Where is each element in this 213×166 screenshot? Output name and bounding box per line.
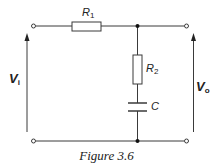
r2-subscript: 2 [154, 67, 158, 76]
bottom-junction-node [136, 139, 140, 143]
resistor-r1 [72, 22, 101, 31]
r1-subscript: 1 [90, 11, 94, 20]
r2-label: R2 [146, 63, 158, 76]
top-junction-node [136, 24, 140, 28]
c-label: C [151, 101, 159, 112]
vi-subscript: i [18, 78, 20, 87]
r1-symbol: R [82, 6, 90, 18]
vi-symbol: V [9, 71, 18, 86]
circuit-diagram [0, 0, 213, 166]
vo-symbol: V [196, 79, 205, 94]
figure-caption: Figure 3.6 [0, 148, 213, 164]
resistor-r2 [133, 55, 142, 84]
vo-subscript: o [205, 86, 210, 95]
input-bottom-terminal [32, 139, 36, 143]
input-top-terminal [32, 24, 36, 28]
vo-arrow-head-icon [191, 33, 196, 41]
output-top-terminal [185, 24, 189, 28]
c-symbol: C [151, 100, 159, 112]
r2-symbol: R [146, 62, 154, 74]
output-bottom-terminal [185, 139, 189, 143]
vi-arrow-head-icon [25, 33, 30, 41]
vi-label: Vi [9, 72, 20, 87]
r1-label: R1 [82, 7, 94, 20]
vo-label: Vo [196, 80, 210, 95]
